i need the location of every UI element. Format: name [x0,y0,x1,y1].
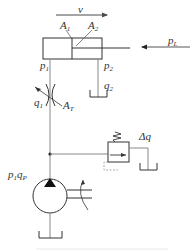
pump [33,178,92,238]
area1-label: A1 [60,20,70,33]
p2-label: p2 [104,60,113,73]
pump-label: p1qP [8,169,27,182]
load-pressure-label: pL [168,35,177,48]
area2-label: A2 [88,20,98,33]
hydraulic-cylinder [43,30,130,59]
velocity-label: v [78,4,83,15]
hydraulic-circuit-diagram [0,0,196,251]
q2-label: q2 [104,80,113,93]
p1-label: p1 [40,60,49,73]
q1-label: q1 [34,97,43,110]
relief-flow-label: Δq [139,131,151,142]
throttle-area-label: AT [63,100,74,113]
